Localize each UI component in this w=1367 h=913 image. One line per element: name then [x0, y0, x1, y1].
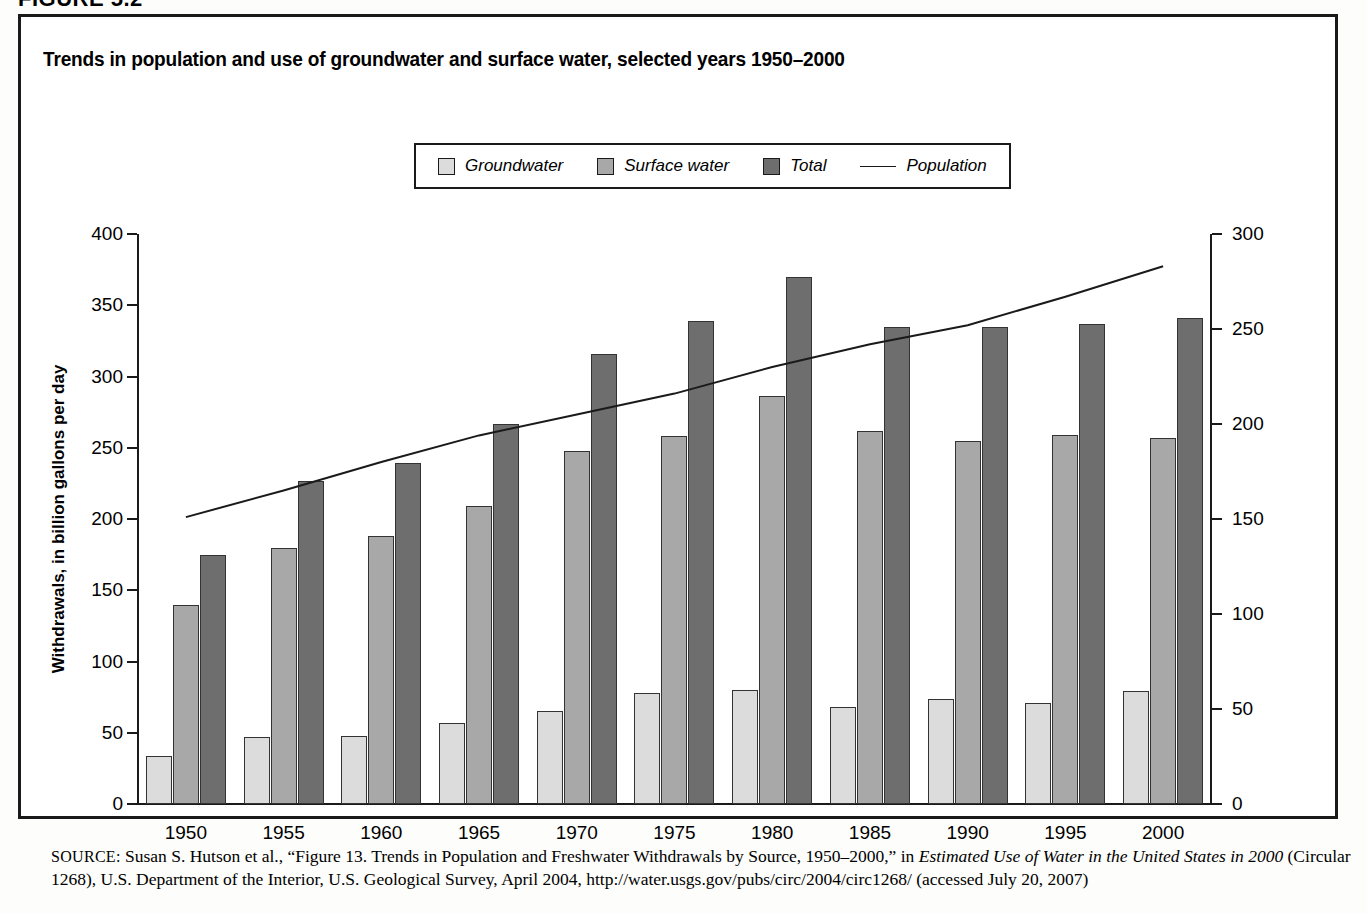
- x-tick-label: 1950: [165, 822, 207, 844]
- legend-swatch-icon: [438, 158, 455, 175]
- x-tick-label: 1990: [947, 822, 989, 844]
- y-tick-label-left: 50: [102, 722, 123, 744]
- legend-swatch-icon: [763, 158, 780, 175]
- plot-frame: Withdrawals, in billion gallons per day …: [137, 234, 1212, 804]
- legend-item-groundwater: Groundwater: [438, 156, 563, 176]
- y-tick-right: [1212, 423, 1222, 425]
- y-tick-label-right: 300: [1232, 223, 1264, 245]
- x-tick-label: 2000: [1142, 822, 1184, 844]
- x-tick-label: 1960: [360, 822, 402, 844]
- population-line-series: [137, 234, 1212, 804]
- y-tick-left: [127, 447, 137, 449]
- y-tick-label-left: 200: [91, 508, 123, 530]
- y-tick-left: [127, 661, 137, 663]
- y-tick-right: [1212, 233, 1222, 235]
- source-prefix: SOURCE:: [51, 848, 121, 865]
- x-tick-label: 1985: [849, 822, 891, 844]
- y-tick-left: [127, 732, 137, 734]
- y-tick-label-left: 300: [91, 366, 123, 388]
- figure-box: Trends in population and use of groundwa…: [18, 14, 1338, 819]
- y-tick-left: [127, 233, 137, 235]
- legend-item-total: Total: [763, 156, 826, 176]
- legend-line-icon: [860, 166, 896, 167]
- legend-label: Population: [906, 156, 986, 176]
- x-tick-label: 1975: [653, 822, 695, 844]
- y-tick-label-left: 250: [91, 437, 123, 459]
- y-tick-label-right: 100: [1232, 603, 1264, 625]
- y-tick-right: [1212, 328, 1222, 330]
- y-tick-left: [127, 518, 137, 520]
- x-tick-label: 1995: [1044, 822, 1086, 844]
- y-tick-label-right: 200: [1232, 413, 1264, 435]
- legend-swatch-icon: [597, 158, 614, 175]
- y-tick-label-right: 250: [1232, 318, 1264, 340]
- plot-area: Withdrawals, in billion gallons per day …: [137, 234, 1212, 804]
- legend-label: Groundwater: [465, 156, 563, 176]
- legend-item-population: Population: [860, 156, 986, 176]
- figure-label: FIGURE 5.2: [18, 0, 143, 12]
- x-tick-label: 1955: [262, 822, 304, 844]
- legend-item-surface-water: Surface water: [597, 156, 729, 176]
- source-note: SOURCE: Susan S. Hutson et al., “Figure …: [51, 845, 1361, 891]
- y-tick-right: [1212, 518, 1222, 520]
- x-tick-label: 1970: [556, 822, 598, 844]
- y-tick-left: [127, 376, 137, 378]
- y-tick-right: [1212, 613, 1222, 615]
- y-tick-left: [127, 304, 137, 306]
- y-tick-label-left: 100: [91, 651, 123, 673]
- x-tick-label: 1965: [458, 822, 500, 844]
- y-tick-left: [127, 589, 137, 591]
- chart-legend: GroundwaterSurface waterTotalPopulation: [414, 143, 1011, 189]
- source-title-italic: Estimated Use of Water in the United Sta…: [919, 846, 1283, 866]
- y-tick-label-right: 0: [1232, 793, 1243, 815]
- y-tick-label-left: 0: [112, 793, 123, 815]
- y-tick-left: [127, 803, 137, 805]
- source-text-1: Susan S. Hutson et al., “Figure 13. Tren…: [121, 846, 919, 866]
- y-tick-label-left: 350: [91, 294, 123, 316]
- y-tick-right: [1212, 803, 1222, 805]
- legend-label: Total: [790, 156, 826, 176]
- y-tick-label-right: 150: [1232, 508, 1264, 530]
- x-tick-label: 1980: [751, 822, 793, 844]
- chart-title: Trends in population and use of groundwa…: [43, 47, 845, 71]
- y-tick-right: [1212, 708, 1222, 710]
- legend-label: Surface water: [624, 156, 729, 176]
- y-axis-left-title: Withdrawals, in billion gallons per day: [49, 365, 69, 674]
- y-tick-label-right: 50: [1232, 698, 1253, 720]
- y-tick-label-left: 150: [91, 579, 123, 601]
- y-tick-label-left: 400: [91, 223, 123, 245]
